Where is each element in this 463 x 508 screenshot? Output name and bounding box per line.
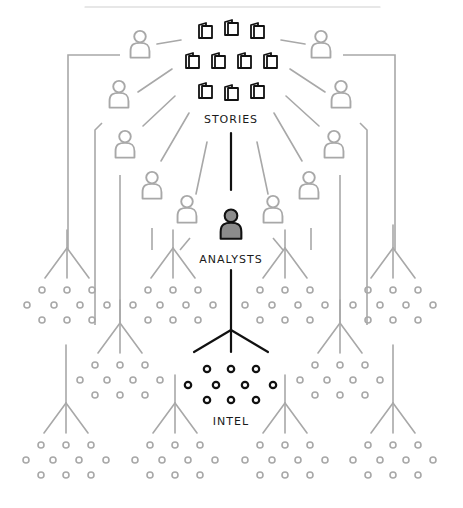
other-analyst-icon-left [178,196,197,223]
focus-analyst-pipeline [185,20,277,403]
fork-left-branch [153,403,175,433]
fork-right-branch [231,330,268,352]
book-icon [251,23,264,38]
fork-left-branch [263,403,285,433]
book-cover-front [254,86,264,98]
other-analyst-icon-right [300,172,319,199]
intel-dot [350,302,356,308]
fork-connector [194,330,268,352]
other-analyst-icon-left [116,131,135,158]
intel-dot [88,442,94,448]
other-intel-cluster [24,287,110,323]
body-shape [312,43,331,58]
intel-dot [282,287,288,293]
body-shape [300,184,319,199]
intel-dot [253,366,259,372]
fork-right-branch [340,323,362,353]
intel-dot [295,457,301,463]
fork-connector [151,248,195,278]
intel-dot [282,317,288,323]
fork-right-branch [393,248,415,278]
intel-dot [403,457,409,463]
intel-dot [38,472,44,478]
fork-connector [45,248,89,278]
intel-dot [415,287,421,293]
analyst-feed-line [343,55,395,250]
book-cover-front [202,86,212,98]
intel-dot [50,457,56,463]
intel-dot [322,302,328,308]
intel-dot [92,392,98,398]
intel-dot [257,442,263,448]
fork-right-branch [120,323,142,353]
fork-left-branch [371,403,393,433]
intel-dot [63,472,69,478]
intel-dot [270,382,276,388]
fork-left-branch [194,330,231,352]
book-cover-front [267,56,277,68]
intel-dot [89,317,95,323]
intel-dot [242,382,248,388]
fork-right-branch [173,248,195,278]
fork-left-branch [98,323,120,353]
intel-dot [147,472,153,478]
book-cover-front [228,23,238,35]
body-shape [325,143,344,158]
intel-dot [242,457,248,463]
book-icon [199,23,212,38]
story-link-line [138,69,172,92]
analysts-label: ANALYSTS [199,253,262,266]
analyst-feed-line [68,55,120,250]
book-icon [251,83,264,98]
head-shape [328,131,340,143]
story-link-line [286,96,319,126]
intel-dot [377,302,383,308]
intel-dot [77,302,83,308]
intel-dot [89,287,95,293]
book-icon [186,53,199,68]
intel-dot [92,362,98,368]
book-cover-front [202,26,212,38]
intel-dot [142,362,148,368]
intel-dot [172,442,178,448]
intel-dot [337,362,343,368]
other-analyst-icon-right [312,31,331,58]
intel-dot [64,317,70,323]
book-cover-front [254,26,264,38]
other-intel-cluster [130,287,216,323]
fork-left-branch [151,248,173,278]
other-analyst-icon-left [131,31,150,58]
intel-dot [307,317,313,323]
fork-connector [263,248,307,278]
fork-left-branch [263,248,285,278]
intel-dot [185,382,191,388]
story-link-line [274,113,302,161]
fork-left-branch [45,248,67,278]
intel-dot [170,317,176,323]
head-shape [146,172,158,184]
intel-dot [39,287,45,293]
story-link-line [281,40,305,44]
intel-dot [145,287,151,293]
other-intel-cluster [297,362,383,398]
intel-dot [39,317,45,323]
body-shape [110,93,129,108]
other-intel-cluster [350,287,436,323]
intel-dot [63,442,69,448]
intel-dot [159,457,165,463]
fork-right-branch [285,403,307,433]
head-shape [181,196,193,208]
body-shape [116,143,135,158]
intel-dot [130,377,136,383]
book-icon [225,20,238,35]
intel-dot [130,302,136,308]
intel-dot [147,442,153,448]
fork-right-branch [175,403,197,433]
body-shape [332,93,351,108]
other-intel-cluster [242,442,328,478]
other-analyst-icon-right [264,196,283,223]
story-link-line [143,96,175,126]
story-link-line [290,69,325,92]
intel-dot [104,377,110,383]
other-analyst-icon-right [325,131,344,158]
